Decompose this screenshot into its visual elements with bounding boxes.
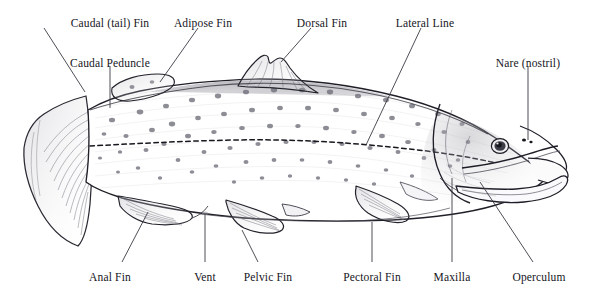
label-operculum: Operculum <box>512 272 565 284</box>
leader-dorsal-fin <box>281 28 311 62</box>
label-lateral-line: Lateral Line <box>396 18 454 30</box>
label-anal-fin: Anal Fin <box>89 272 131 284</box>
label-pectoral-fin: Pectoral Fin <box>343 272 401 284</box>
head-group <box>420 104 568 210</box>
label-caudal-tail-fin: Caudal (tail) Fin <box>71 18 150 30</box>
leader-adipose-fin <box>160 28 198 82</box>
label-adipose-fin: Adipose Fin <box>174 18 232 30</box>
label-caudal-peduncle: Caudal Peduncle <box>70 58 150 70</box>
nare-nostril-marking <box>522 139 533 144</box>
eye <box>491 139 508 154</box>
label-pelvic-fin: Pelvic Fin <box>244 272 292 284</box>
label-vent: Vent <box>194 272 216 284</box>
trout-illustration <box>0 0 591 292</box>
caudal-fin <box>24 96 92 246</box>
label-maxilla: Maxilla <box>434 272 471 284</box>
label-dorsal-fin: Dorsal Fin <box>297 18 347 30</box>
fish-anatomy-diagram: Caudal (tail) FinCaudal PeduncleAdipose … <box>0 0 591 292</box>
leader-pelvic-fin <box>242 230 258 262</box>
leader-anal-fin <box>122 212 148 262</box>
fish-body-group <box>24 55 568 246</box>
dorsal-fin-shape <box>238 55 318 93</box>
label-nare-nostril: Nare (nostril) <box>496 58 560 70</box>
